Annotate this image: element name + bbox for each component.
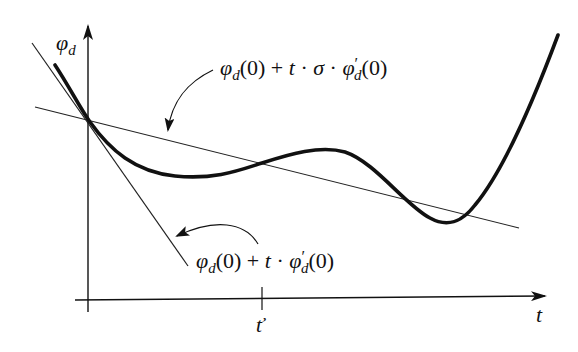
sigma-line (35, 107, 519, 228)
t-check-label: ť (256, 312, 266, 337)
y-axis-label: φd (56, 30, 76, 58)
lower-label-arrow (177, 225, 258, 244)
upper-formula-label: φd(0) + t · σ · φ′d(0) (220, 55, 387, 83)
upper-label-arrow (168, 70, 213, 130)
lower-formula-label: φd(0) + t · φ′d(0) (196, 248, 334, 276)
x-axis-label: t (536, 302, 543, 327)
tangent-line (32, 43, 188, 266)
line-search-diagram: φd φd(0) + t · σ · φ′d(0) φd(0) + t · φ′… (0, 0, 578, 352)
x-axis (75, 296, 545, 300)
